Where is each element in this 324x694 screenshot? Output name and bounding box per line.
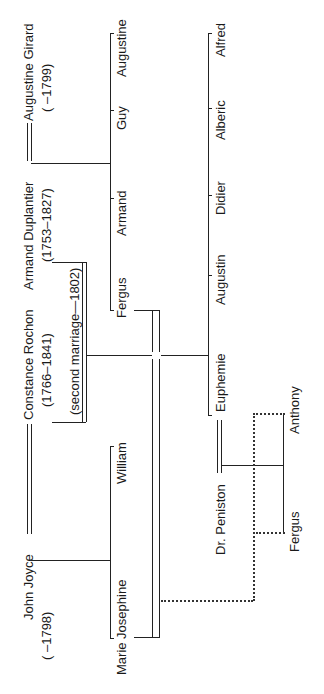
- children-bar-duplantier-rochon: [208, 33, 209, 415]
- dates-constance-rochon: (1766–1841): [40, 333, 54, 407]
- child-armand: Armand: [115, 190, 129, 236]
- marriage-line-rochon-joyce-2: [31, 424, 32, 534]
- person-armand-duplantier: Armand Duplantier: [22, 182, 36, 290]
- child-augustin: Augustin: [214, 254, 228, 305]
- marriage-line-fergus-marie-1b: [152, 359, 153, 637]
- marriage-line-fergus-marie-2b: [159, 359, 160, 637]
- marriage-line-fergus-marie-1: [152, 310, 153, 352]
- descent-stem-second-marriage: [86, 355, 152, 356]
- tick-alfred: [208, 33, 212, 34]
- person-dr-peniston: Dr. Peniston: [214, 484, 228, 555]
- child-didier: Didier: [214, 181, 228, 215]
- descent-stem-peniston: [221, 465, 283, 466]
- person-constance-rochon: Constance Rochon: [22, 309, 36, 420]
- child-marie-josephine: Marie Josephine: [115, 580, 129, 675]
- dotted-line-to-fergus: [256, 532, 285, 534]
- children-bar-joyce: [110, 446, 111, 638]
- child-euphemie: Euphemie: [214, 353, 228, 412]
- tick-didier: [208, 195, 212, 196]
- hook-marie-josephine: [134, 637, 160, 638]
- dotted-line-to-anthony: [253, 413, 285, 415]
- person-augustine-girard: Augustine Girard: [22, 23, 36, 121]
- second-marriage-line-1: [82, 262, 83, 422]
- name-armand-duplantier: Armand Duplantier: [21, 182, 36, 290]
- hook-constance: [52, 422, 86, 423]
- children-bar-peniston: [283, 413, 284, 532]
- child-fergus-peniston: Fergus: [288, 512, 302, 552]
- person-john-joyce: John Joyce: [22, 554, 36, 620]
- tick-euphemie: [208, 415, 212, 416]
- marriage-line-fergus-marie-2: [159, 310, 160, 352]
- child-william: William: [115, 442, 129, 484]
- dates-john-joyce: ( –1798): [40, 612, 54, 660]
- descent-stem-girard: [31, 163, 110, 164]
- child-alberic: Alberic: [214, 100, 228, 140]
- dates-armand-duplantier: (1753–1827): [40, 188, 54, 262]
- marriage-line-rochon-joyce: [27, 424, 28, 534]
- name-augustine-girard: Augustine Girard: [21, 23, 36, 121]
- child-alfred: Alfred: [214, 23, 228, 57]
- hook-fergus: [134, 310, 160, 311]
- hook-armand: [52, 262, 86, 263]
- child-anthony: Anthony: [288, 386, 302, 434]
- dates-augustine-girard: ( –1799): [40, 64, 54, 112]
- child-augustine: Augustine: [115, 19, 129, 77]
- marriage-line-girard-duplantier-2: [31, 123, 32, 161]
- family-tree-diagram: Augustine Girard ( –1799) Armand Duplant…: [0, 0, 324, 694]
- second-marriage-label: (second marriage—1802): [68, 268, 82, 415]
- descent-stem-joyce: [31, 560, 110, 561]
- child-fergus: Fergus: [115, 278, 129, 318]
- tick-alberic: [208, 108, 212, 109]
- descent-stem-second-marriage-b: [161, 355, 208, 356]
- children-bar-girard: [110, 33, 111, 310]
- marriage-line-peniston-euphemie-1: [217, 420, 218, 473]
- second-marriage-line-2: [86, 262, 87, 422]
- child-guy: Guy: [115, 106, 129, 130]
- marriage-line-girard-duplantier: [27, 123, 28, 161]
- tick-augustin: [208, 275, 212, 276]
- dotted-line-from-fergus-marie: [161, 600, 253, 602]
- name-constance-rochon: Constance Rochon: [21, 309, 36, 420]
- name-john-joyce: John Joyce: [21, 554, 36, 620]
- dotted-line-vertical: [253, 413, 255, 601]
